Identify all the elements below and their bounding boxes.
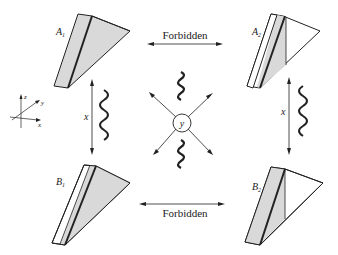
wave-center-top-icon bbox=[178, 72, 184, 100]
axis-y-label: y bbox=[40, 99, 45, 107]
center-label: y bbox=[179, 118, 185, 129]
x-label-right: x bbox=[280, 106, 286, 117]
wave-center-bottom-icon bbox=[178, 140, 184, 168]
label-b1: B1 bbox=[56, 176, 65, 188]
label-a1: A1 bbox=[55, 26, 65, 38]
wave-left-icon bbox=[100, 90, 108, 140]
wave-right-icon bbox=[299, 86, 307, 136]
axis-x-label: x bbox=[37, 121, 42, 129]
axis-z-label: z bbox=[23, 93, 27, 101]
prism-b2 bbox=[245, 167, 323, 245]
forbidden-arrow-top bbox=[147, 42, 223, 46]
forbidden-label-bottom: Forbidden bbox=[162, 207, 208, 219]
x-arrow-left bbox=[90, 79, 94, 155]
label-b2: B2 bbox=[252, 181, 261, 193]
forbidden-label-top: Forbidden bbox=[162, 29, 208, 41]
prism-a1 bbox=[54, 14, 130, 88]
label-a2: A2 bbox=[251, 26, 261, 38]
prism-b1 bbox=[52, 165, 130, 245]
forbidden-arrow-bottom bbox=[139, 202, 225, 206]
diagram-canvas: A1 A2 B1 B2 Forbidden Forbidden bbox=[0, 0, 338, 255]
x-arrow-right bbox=[287, 77, 291, 155]
x-label-left: x bbox=[83, 111, 89, 122]
